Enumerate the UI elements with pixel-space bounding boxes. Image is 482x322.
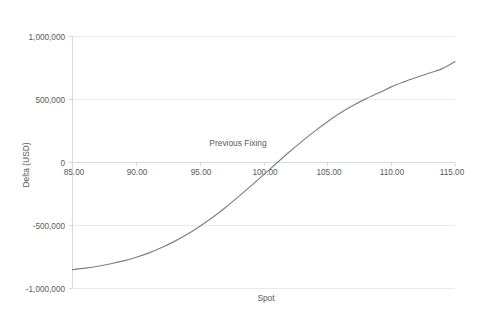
x-tick-label-110: 110.00 (380, 168, 405, 177)
y-axis-ticks (69, 37, 72, 289)
x-axis-tick-labels: 85.00 90.00 95.00 100.00 105.00 110.00 1… (64, 168, 465, 177)
x-tick-label-105: 105.00 (316, 168, 341, 177)
x-axis-title: Spot (257, 293, 275, 303)
y-axis-title: Delta (USD) (21, 142, 31, 187)
x-tick-label-95: 95.00 (191, 168, 212, 177)
previous-fixing-annotation: Previous Fixing (209, 138, 267, 148)
chart-container: 1,000,000 500,000 0 -500,000 -1,000,000 … (0, 0, 482, 322)
x-tick-label-90: 90.00 (127, 168, 148, 177)
y-tick-label-minus1000000: -1,000,000 (26, 285, 66, 294)
x-tick-label-85: 85.00 (64, 168, 85, 177)
footer-caption-strip (12, 314, 312, 319)
y-tick-label-1000000: 1,000,000 (29, 33, 66, 42)
x-tick-label-100: 100.00 (252, 168, 277, 177)
y-tick-label-0: 0 (60, 159, 65, 168)
x-tick-label-115: 115.00 (440, 168, 465, 177)
delta-vs-spot-chart: 1,000,000 500,000 0 -500,000 -1,000,000 … (0, 0, 482, 322)
y-axis-tick-labels: 1,000,000 500,000 0 -500,000 -1,000,000 (26, 33, 66, 294)
x-axis-ticks (73, 163, 456, 167)
y-tick-label-minus500000: -500,000 (33, 222, 66, 231)
y-tick-label-500000: 500,000 (35, 96, 65, 105)
